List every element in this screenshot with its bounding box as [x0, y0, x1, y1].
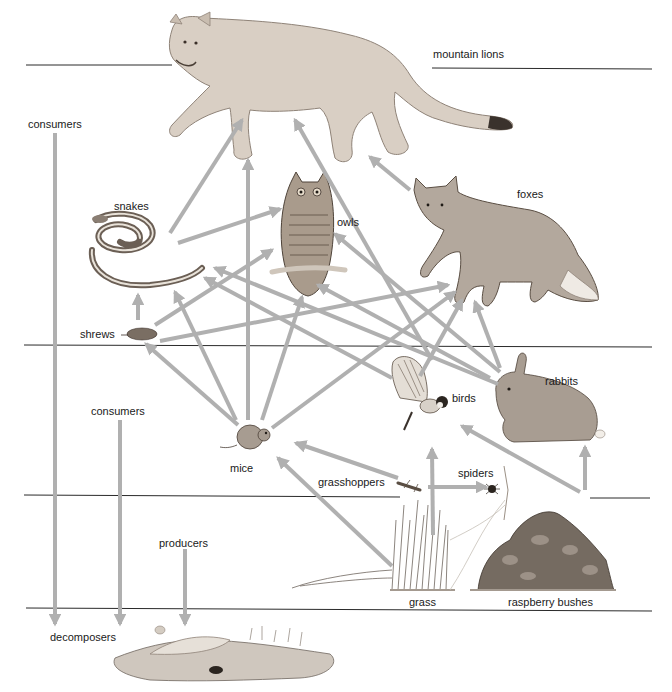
- label-owls: owls: [337, 216, 359, 228]
- label-mountain-lions: mountain lions: [433, 48, 504, 60]
- label-mice: mice: [230, 462, 253, 474]
- divider-line-3a: [24, 495, 400, 497]
- label-producers: producers: [159, 537, 208, 549]
- mountain-lion-illustration: [169, 12, 512, 162]
- food-web-diagram: mountain lions consumers snakes owls fox…: [0, 0, 672, 692]
- label-decomposers: decomposers: [50, 631, 116, 643]
- divider-line-2: [24, 345, 652, 347]
- rabbit-illustration: [496, 353, 605, 442]
- arrow-grass-to-birds: [432, 449, 433, 535]
- arrow-shrews-to-owls: [155, 250, 272, 325]
- label-snakes: snakes: [114, 200, 149, 212]
- label-spiders: spiders: [458, 467, 493, 479]
- label-foxes: foxes: [517, 188, 543, 200]
- arrow-mice-to-shrews: [146, 344, 238, 425]
- label-grasshoppers: grasshoppers: [318, 476, 385, 488]
- grass-illustration: [292, 500, 505, 590]
- grasshopper-illustration: [398, 480, 420, 492]
- arrow-snakes-to-owls: [178, 209, 280, 243]
- label-consumers-upper: consumers: [28, 118, 82, 130]
- label-grass: grass: [409, 596, 436, 608]
- arrow-mice-to-snakes: [175, 292, 236, 420]
- label-raspberry-bushes: raspberry bushes: [508, 596, 593, 608]
- arrow-rabbits-to-foxes: [475, 302, 500, 368]
- label-consumers-lower: consumers: [91, 405, 145, 417]
- arrow-snakes-to-mountain-lions: [170, 120, 242, 233]
- snake-illustration: [92, 214, 202, 286]
- diagram-canvas: [0, 0, 672, 692]
- mouse-illustration: [220, 425, 270, 449]
- bird-illustration: [392, 357, 448, 430]
- label-rabbits: rabbits: [545, 375, 578, 387]
- raspberry-bushes-illustration: [470, 512, 616, 590]
- arrow-grasshoppers-to-mice: [296, 443, 398, 478]
- arrow-foxes-to-mountain-lions: [370, 157, 410, 190]
- label-birds: birds: [452, 392, 476, 404]
- shrew-illustration: [121, 328, 157, 340]
- decomposers-illustration: [114, 626, 334, 681]
- label-shrews: shrews: [80, 328, 115, 340]
- arrow-grass-to-mice: [278, 458, 392, 566]
- divider-line-1b: [432, 68, 652, 69]
